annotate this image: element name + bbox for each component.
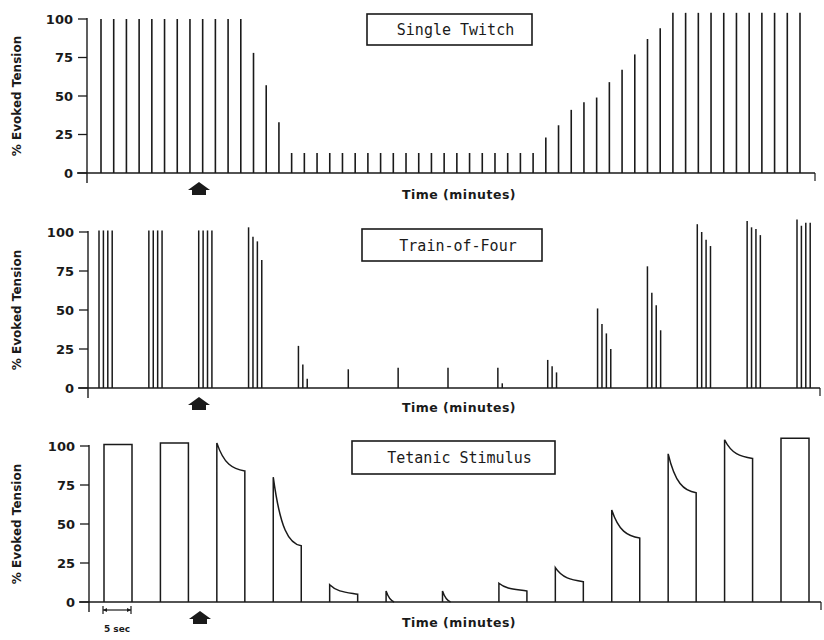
y-tick-label: 25 [56, 342, 74, 357]
tetanic-response [104, 444, 132, 602]
y-tick-label: 50 [55, 89, 73, 104]
tetanic-response [781, 438, 809, 602]
tetanic-response [555, 568, 583, 602]
arrow-up-icon [188, 182, 210, 195]
x-axis-title: Time (minutes) [402, 400, 516, 415]
panel-2: 1007550250% Evoked TensionTime (minutes)… [10, 225, 820, 416]
arrow-up-icon [188, 397, 210, 410]
y-tick-label: 75 [56, 264, 74, 279]
panel-title: Single Twitch [397, 21, 514, 39]
tetanic-response [273, 477, 301, 602]
panel-1: 1007550250% Evoked TensionTime (minutes)… [10, 12, 815, 203]
y-tick-label: 25 [55, 127, 73, 142]
tetanic-response [217, 443, 245, 602]
y-tick-label: 100 [46, 12, 73, 27]
y-tick-label: 50 [56, 303, 74, 318]
x-axis-title: Time (minutes) [402, 615, 516, 630]
y-axis-title: % Evoked Tension [10, 464, 24, 584]
tetanic-response [725, 440, 753, 602]
y-tick-label: 100 [47, 225, 74, 240]
arrow-up-icon [189, 611, 211, 624]
y-tick-label: 75 [57, 478, 75, 493]
tetanic-response [612, 510, 640, 602]
y-tick-label: 0 [66, 595, 75, 610]
tetanic-response [443, 591, 451, 602]
y-axis-title: % Evoked Tension [10, 36, 24, 156]
tetanic-response [499, 583, 527, 602]
y-tick-label: 75 [55, 50, 73, 65]
tetanic-response [160, 443, 188, 602]
y-tick-label: 50 [57, 517, 75, 532]
y-axis-title: % Evoked Tension [10, 250, 24, 370]
tetanic-response [386, 591, 394, 602]
neuromuscular-chart: 1007550250% Evoked TensionTime (minutes)… [0, 0, 824, 640]
x-axis-title: Time (minutes) [402, 187, 516, 202]
scale-bar-label: 5 sec [104, 624, 130, 634]
tetanic-response [668, 454, 696, 602]
panel-title: Train-of-Four [399, 237, 516, 255]
y-tick-label: 0 [65, 381, 74, 396]
y-tick-label: 25 [57, 556, 75, 571]
panel-title: Tetanic Stimulus [387, 449, 532, 467]
tetanic-responses: 5 sec [103, 438, 809, 634]
y-tick-label: 0 [64, 166, 73, 181]
y-tick-label: 100 [48, 439, 75, 454]
tetanic-response [330, 585, 358, 602]
